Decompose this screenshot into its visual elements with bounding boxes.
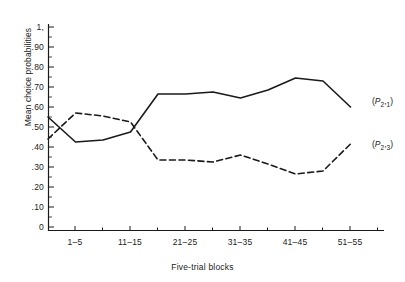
series-line-p2-3 bbox=[48, 113, 351, 174]
x-axis-ticks bbox=[75, 226, 378, 231]
series-line-p2-1 bbox=[48, 78, 351, 142]
series-label-p2-1: (P2,1) bbox=[372, 96, 393, 108]
plot-area bbox=[0, 0, 405, 282]
series-label-p2-3: (P2,3) bbox=[372, 139, 393, 151]
line-chart-figure: Mean choice probabilities 1, .90 .80 .70… bbox=[0, 0, 405, 282]
